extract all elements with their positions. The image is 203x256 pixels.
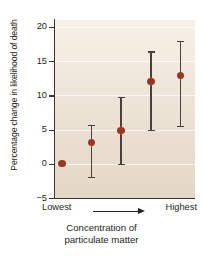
y-tick-mark bbox=[49, 61, 54, 62]
y-tick-label: 10 bbox=[7, 91, 47, 100]
gridline bbox=[55, 27, 195, 28]
y-tick-label: 0 bbox=[7, 159, 47, 168]
error-bar-cap bbox=[88, 177, 95, 178]
gridline bbox=[55, 164, 195, 165]
y-tick-label: 15 bbox=[7, 57, 47, 66]
chart-figure: Percentage change in likelihood of death… bbox=[0, 0, 203, 256]
x-axis-highest-label: Highest bbox=[165, 202, 197, 212]
error-bar bbox=[150, 51, 151, 129]
y-tick-label: 20 bbox=[7, 22, 47, 31]
plot-area bbox=[55, 20, 195, 198]
x-axis-line bbox=[54, 198, 195, 199]
x-axis-lowest-label: Lowest bbox=[42, 202, 71, 212]
error-bar-cap bbox=[148, 51, 155, 52]
error-bar-cap bbox=[177, 41, 184, 42]
gridline bbox=[55, 61, 195, 62]
error-bar-cap bbox=[177, 126, 184, 127]
arrow-right-icon bbox=[93, 208, 146, 216]
x-axis-title-line-2: particulate matter bbox=[0, 234, 203, 246]
error-bar-cap bbox=[148, 130, 155, 131]
error-bar-cap bbox=[118, 164, 125, 165]
y-tick-mark bbox=[49, 130, 54, 131]
error-bar bbox=[91, 125, 92, 177]
error-bar bbox=[180, 41, 181, 127]
x-axis-annotation: Lowest Highest bbox=[0, 201, 203, 217]
data-point bbox=[58, 160, 65, 167]
y-tick-mark bbox=[49, 95, 54, 96]
data-point bbox=[147, 78, 154, 85]
gridline bbox=[55, 95, 195, 96]
error-bar-cap bbox=[88, 125, 95, 126]
y-axis-line bbox=[54, 19, 55, 199]
y-tick-mark bbox=[49, 198, 54, 199]
y-tick-mark bbox=[49, 27, 54, 28]
x-axis-title: Concentration of particulate matter bbox=[0, 222, 203, 247]
y-tick-label: 5 bbox=[7, 125, 47, 134]
y-tick-mark bbox=[49, 164, 54, 165]
gridline bbox=[55, 130, 195, 131]
arrow-shaft bbox=[93, 211, 139, 212]
x-axis-title-line-1: Concentration of bbox=[0, 222, 203, 234]
error-bar-cap bbox=[118, 97, 125, 98]
arrow-head bbox=[138, 208, 145, 214]
